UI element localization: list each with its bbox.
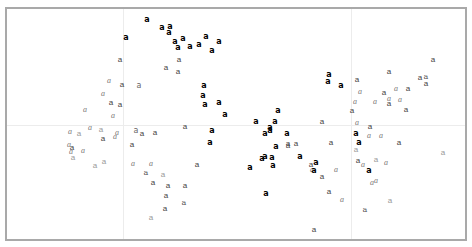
data-point-glyph: a <box>273 143 278 151</box>
data-point-glyph: a <box>424 80 428 88</box>
data-point-glyph: a <box>263 190 268 198</box>
data-point-glyph: a <box>356 157 360 165</box>
data-point-glyph: a <box>368 123 372 131</box>
data-point-glyph: a <box>109 99 113 107</box>
data-point-glyph: a <box>320 173 324 181</box>
data-point-glyph: a <box>363 206 368 214</box>
data-point-glyph: a <box>151 179 155 187</box>
data-point-glyph: a <box>394 85 398 93</box>
gridline-vertical-2 <box>351 9 352 239</box>
data-point-glyph: a <box>203 33 208 41</box>
data-point-glyph: a <box>176 68 180 76</box>
data-point-glyph: a <box>262 153 267 161</box>
data-point-glyph: a <box>387 100 391 108</box>
data-point-glyph: a <box>366 167 371 175</box>
data-point-glyph: a <box>355 119 359 127</box>
data-point-glyph: a <box>355 76 359 84</box>
data-point-glyph: a <box>329 139 333 147</box>
data-point-glyph: a <box>431 56 435 64</box>
data-point-glyph: a <box>120 81 124 89</box>
data-point-glyph: a <box>207 139 212 147</box>
gridline-horizontal <box>7 125 465 126</box>
data-point-glyph: a <box>166 182 170 190</box>
data-point-glyph: a <box>144 16 149 24</box>
data-point-glyph: a <box>118 56 122 64</box>
data-point-glyph: a <box>320 118 324 126</box>
data-point-glyph: a <box>81 147 85 155</box>
data-point-glyph: a <box>270 162 275 170</box>
data-point-glyph: a <box>88 124 92 132</box>
data-point-glyph: a <box>367 132 371 140</box>
data-point-glyph: a <box>311 167 316 175</box>
data-point-glyph: a <box>195 161 199 169</box>
data-point-glyph: a <box>247 164 252 172</box>
data-point-glyph: a <box>353 130 358 138</box>
data-point-glyph: a <box>144 169 149 177</box>
data-point-glyph: a <box>361 161 365 169</box>
data-point-glyph: a <box>182 199 187 207</box>
data-point-glyph: a <box>406 85 410 93</box>
data-point-glyph: a <box>183 182 187 190</box>
data-point-glyph: a <box>267 127 272 135</box>
data-point-glyph: a <box>338 82 343 90</box>
data-point-glyph: a <box>93 162 97 170</box>
data-point-glyph: a <box>115 129 119 137</box>
data-point-glyph: a <box>101 135 105 143</box>
data-point-glyph: a <box>77 130 81 138</box>
data-point-glyph: a <box>131 160 135 168</box>
data-point-glyph: a <box>102 158 106 166</box>
data-point-glyph: a <box>134 127 139 135</box>
data-point-glyph: a <box>284 130 289 138</box>
data-point-glyph: a <box>180 35 185 43</box>
data-point-glyph: a <box>149 214 153 222</box>
data-point-glyph: a <box>374 156 378 164</box>
data-point-glyph: a <box>149 160 153 168</box>
data-point-glyph: a <box>164 64 168 72</box>
data-point-glyph: a <box>161 171 165 179</box>
data-point-glyph: a <box>99 126 103 134</box>
data-point-glyph: a <box>253 118 258 126</box>
data-point-glyph: a <box>164 192 168 200</box>
gridline-vertical-1 <box>123 9 124 239</box>
data-point-glyph: a <box>398 96 402 104</box>
data-point-glyph: a <box>209 47 214 55</box>
data-point-glyph: a <box>200 92 205 100</box>
data-point-glyph: a <box>379 132 383 140</box>
data-point-glyph: a <box>196 41 201 49</box>
data-point-glyph: a <box>101 90 105 98</box>
data-point-glyph: a <box>325 78 330 86</box>
data-point-glyph: a <box>83 106 87 114</box>
data-point-glyph: a <box>123 34 128 42</box>
data-point-glyph: a <box>222 111 227 119</box>
data-point-glyph: a <box>358 88 362 96</box>
data-point-glyph: a <box>350 107 354 115</box>
data-point-glyph: a <box>418 74 422 82</box>
data-point-glyph: a <box>262 130 267 138</box>
data-point-glyph: a <box>111 112 115 120</box>
data-point-glyph: a <box>294 140 298 148</box>
data-point-glyph: a <box>166 29 171 37</box>
data-point-glyph: a <box>374 177 378 185</box>
data-point-glyph: a <box>68 128 72 136</box>
data-point-glyph: a <box>163 205 167 213</box>
data-point-glyph: a <box>388 197 392 205</box>
data-point-glyph: a <box>137 82 142 90</box>
data-point-glyph: a <box>327 188 331 196</box>
data-point-glyph: a <box>140 130 144 138</box>
data-point-glyph: a <box>130 141 134 149</box>
data-point-glyph: a <box>384 159 388 167</box>
data-point-glyph: a <box>216 99 221 107</box>
data-point-glyph: a <box>177 56 181 64</box>
data-point-glyph: a <box>397 139 401 147</box>
data-point-glyph: a <box>353 98 357 106</box>
data-point-glyph: a <box>334 166 338 174</box>
data-point-glyph: a <box>201 82 206 90</box>
data-point-glyph: a <box>187 43 192 51</box>
data-point-glyph: a <box>312 226 316 234</box>
data-point-glyph: a <box>340 196 344 204</box>
data-point-glyph: a <box>354 146 358 154</box>
data-point-glyph: a <box>202 101 207 109</box>
data-point-glyph: a <box>286 142 290 150</box>
data-point-glyph: a <box>404 106 408 114</box>
data-point-glyph: a <box>175 44 180 52</box>
